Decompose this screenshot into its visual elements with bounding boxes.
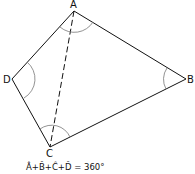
angle-arc-a [60,22,93,32]
vertex-label-c: C [46,148,53,159]
diagonal-ac [50,11,74,147]
quadrilateral-diagram: A B C D Â+B̂+Ĉ+D̂ = 360° [0,0,195,174]
side-ab [74,11,186,79]
side-da [12,11,74,79]
angle-arc-b [163,68,167,89]
vertex-label-d: D [3,74,11,85]
vertex-label-b: B [187,74,194,85]
angle-arc-d [24,62,35,98]
angle-sum-formula: Â+B̂+Ĉ+D̂ = 360° [26,161,105,172]
angle-arcs [24,22,167,137]
quadrilateral-sides [12,11,186,147]
angle-arc-c [40,125,70,137]
side-bc [50,79,186,147]
side-cd [12,79,50,147]
vertex-label-a: A [70,0,77,10]
